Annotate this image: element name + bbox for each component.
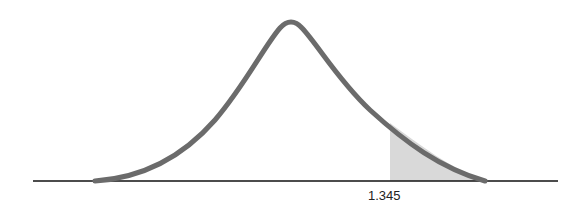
density-curve bbox=[95, 22, 485, 181]
critical-value-label: 1.345 bbox=[368, 188, 401, 203]
shaded-tail-region bbox=[390, 123, 485, 181]
distribution-diagram bbox=[0, 0, 587, 211]
